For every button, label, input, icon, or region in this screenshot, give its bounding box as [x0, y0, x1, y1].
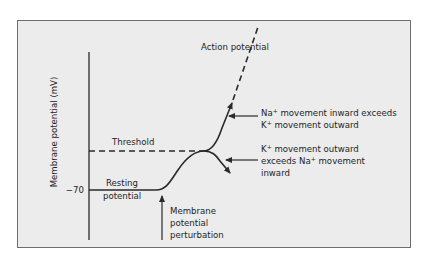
y-axis-label: Membrane potential (mV) [49, 77, 59, 188]
action-potential-dashed [233, 27, 258, 100]
perturbation-label-line2: potential [170, 218, 208, 228]
action-potential-label: Action potential [201, 42, 269, 52]
perturbation-label-line3: perturbation [170, 230, 224, 240]
y-tick-label: −70 [66, 185, 84, 195]
na-annotation-line1: Na+ movement inward exceeds [261, 107, 397, 118]
action-potential-diagram: Membrane potential (mV) −70 Threshold Re… [0, 0, 430, 265]
falling-branch [204, 151, 230, 173]
k-annotation-line2: exceeds Na+ movement [261, 155, 366, 166]
na-annotation-line2: K+ movement outward [261, 119, 359, 130]
resting-label-line2: potential [103, 191, 141, 201]
k-annotation-line3: inward [261, 168, 290, 178]
rising-branch [204, 103, 232, 151]
k-annotation-line1: K+ movement outward [261, 143, 359, 154]
threshold-label: Threshold [111, 137, 154, 147]
perturbation-label-line1: Membrane [170, 206, 216, 216]
resting-label-line1: Resting [106, 178, 138, 188]
